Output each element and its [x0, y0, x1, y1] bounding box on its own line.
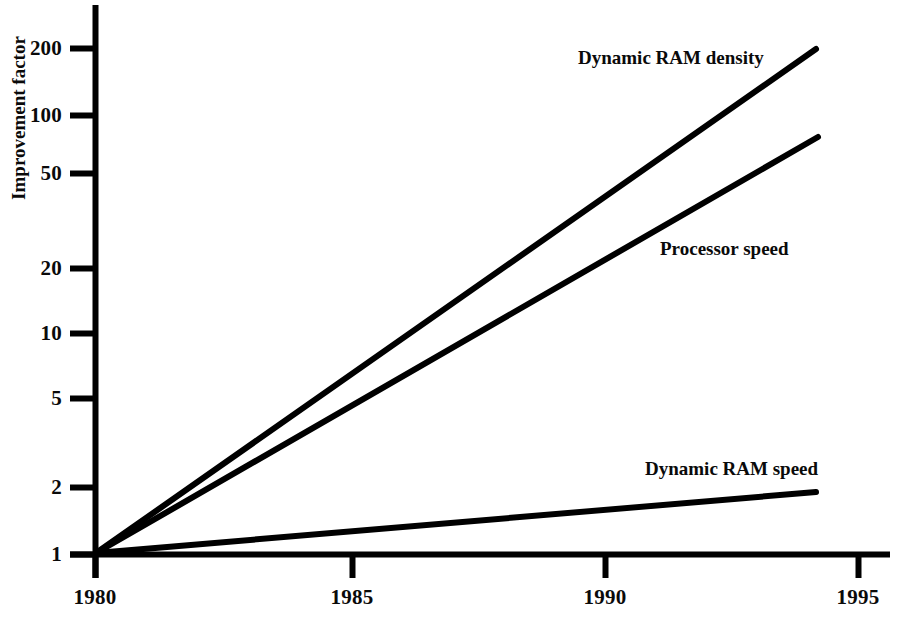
y-tick-label-200: 200 — [6, 38, 62, 59]
plot-area — [0, 0, 912, 630]
y-tick-label-1: 1 — [6, 544, 62, 565]
y-tick-label-2: 2 — [6, 477, 62, 498]
y-axis-ticks — [70, 49, 95, 555]
series-line-processor-speed — [96, 137, 818, 553]
y-tick-label-20: 20 — [6, 258, 62, 279]
y-tick-label-100: 100 — [6, 105, 62, 126]
chart-figure: Improvement factor 200 100 50 20 10 5 2 … — [0, 0, 912, 630]
series-label-dram-speed: Dynamic RAM speed — [645, 459, 818, 478]
x-tick-label-1995: 1995 — [837, 587, 880, 608]
series-label-dram-density: Dynamic RAM density — [578, 48, 764, 67]
x-tick-label-1980: 1980 — [74, 587, 117, 608]
x-tick-label-1990: 1990 — [584, 587, 627, 608]
series-label-processor-speed: Processor speed — [660, 239, 789, 258]
series-line-dram-speed — [96, 492, 816, 553]
x-tick-label-1985: 1985 — [331, 587, 374, 608]
y-tick-label-10: 10 — [6, 323, 62, 344]
x-axis-ticks — [96, 554, 859, 578]
y-tick-label-5: 5 — [6, 388, 62, 409]
y-tick-label-50: 50 — [6, 163, 62, 184]
